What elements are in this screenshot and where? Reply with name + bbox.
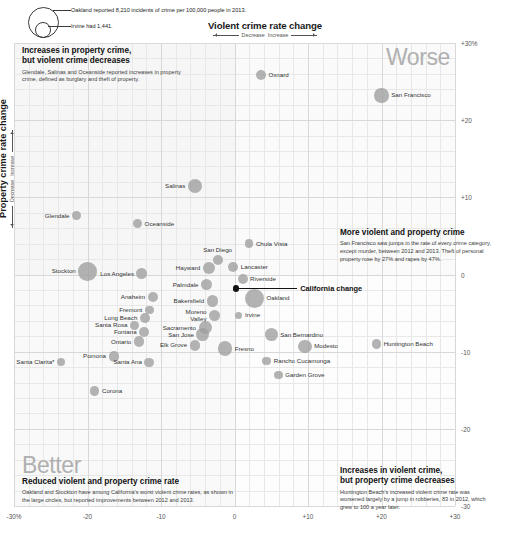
data-point-label: Rancho Cucamonga xyxy=(274,358,330,364)
annotation-bottom-left: Reduced violent and property crime rate … xyxy=(22,477,238,505)
annotation-top-right-body: San Francisco saw jumps in the rate of e… xyxy=(340,240,492,264)
arrow-right-icon xyxy=(291,35,317,36)
gridline-horizontal xyxy=(14,197,455,198)
gridline-vertical xyxy=(455,43,456,506)
y-tick-label: +10 xyxy=(461,194,472,201)
data-point-bubble[interactable] xyxy=(78,262,96,280)
x-tick-label: 0 xyxy=(233,513,237,520)
data-point-label: Garden Grove xyxy=(285,372,324,378)
data-point-bubble[interactable] xyxy=(213,255,223,265)
data-point-label: Bakersfield xyxy=(174,298,205,304)
x-tick-label: -10 xyxy=(156,513,165,520)
x-tick-label: +20 xyxy=(376,513,387,520)
data-point-label: Anaheim xyxy=(121,294,145,300)
data-point-bubble[interactable] xyxy=(274,371,282,379)
data-point-bubble[interactable] xyxy=(140,313,150,323)
legend-text-oakland: Oakland reported 8,210 incidents of crim… xyxy=(71,7,246,13)
data-point-label: Salinas xyxy=(165,183,185,189)
data-point-bubble[interactable] xyxy=(238,274,248,284)
data-point-label: San Diego xyxy=(203,247,232,253)
data-point-bubble[interactable] xyxy=(203,262,215,274)
data-point-label: Modesto xyxy=(314,343,338,349)
data-point-bubble[interactable] xyxy=(134,336,144,346)
gridline-horizontal xyxy=(14,429,455,430)
annotation-bottom-right-headline-2: but property crime decreases xyxy=(340,476,492,486)
x-dir-decrease-label: Decrease xyxy=(242,32,265,38)
data-point-label: Oakland xyxy=(266,295,289,301)
annotation-bottom-right: Increases in violent crime, but property… xyxy=(340,466,492,512)
worse-label: Worse xyxy=(386,44,450,71)
annotation-bottom-right-body: Huntington Beach's increased violent cri… xyxy=(340,489,492,513)
annotation-top-left-headline-1: Increases in property crime, xyxy=(22,46,182,56)
x-axis-title: Violent crime rate change xyxy=(190,20,340,31)
data-point-label: Elk Grove xyxy=(160,342,187,348)
data-point-bubble[interactable] xyxy=(139,327,149,337)
annotation-bottom-right-headline-1: Increases in violent crime, xyxy=(340,466,492,476)
data-point-bubble[interactable] xyxy=(298,340,311,353)
data-point-bubble[interactable] xyxy=(207,295,219,307)
data-point-label: Santa Clarita* xyxy=(16,359,54,365)
data-point-label: Irvine xyxy=(245,312,260,318)
gridline-horizontal xyxy=(14,120,455,121)
legend-circle-small xyxy=(35,22,51,38)
x-axis-title-block: Violent crime rate change Decrease Incre… xyxy=(190,20,340,38)
data-point-label: Ontario xyxy=(111,339,131,345)
data-point-label: San Jose xyxy=(168,332,194,338)
data-point-bubble[interactable] xyxy=(265,328,278,341)
data-point-label: Glendale xyxy=(45,213,70,219)
data-point-bubble[interactable] xyxy=(188,179,202,193)
legend-leader-line-oakland xyxy=(53,10,71,11)
data-point-label: Fresno xyxy=(235,345,254,351)
data-point-bubble[interactable] xyxy=(90,386,99,395)
arrow-up-icon xyxy=(12,130,13,152)
arrow-down-icon xyxy=(12,206,13,228)
data-point-bubble[interactable] xyxy=(148,292,158,302)
data-point-bubble[interactable] xyxy=(190,340,200,350)
data-point-label: Chula Vista xyxy=(256,241,288,247)
california-change-label: California change xyxy=(300,284,362,293)
arrow-left-icon xyxy=(213,35,239,36)
better-label: Better xyxy=(22,452,81,479)
x-axis-direction-row: Decrease Increase xyxy=(190,32,340,38)
annotation-bottom-left-body: Oakland and Stockton have among Californ… xyxy=(22,489,238,505)
x-dir-increase-label: Increase xyxy=(268,32,289,38)
annotation-top-right-headline-1: More violent and property crime xyxy=(340,228,492,238)
data-point-bubble[interactable] xyxy=(218,341,232,355)
data-point-label: Pomona xyxy=(83,353,106,359)
data-point-label: San Bernardino xyxy=(280,332,323,338)
data-point-bubble[interactable] xyxy=(228,262,238,272)
data-point-label: Oxnard xyxy=(268,72,288,78)
y-tick-label: 0 xyxy=(461,271,465,278)
annotation-top-left-headline-2: but violent crime decreases xyxy=(22,56,182,66)
data-point-label: Los Angeles xyxy=(100,271,134,277)
legend-leader-line-irvine xyxy=(48,26,71,27)
data-point-label: Santa Ana xyxy=(113,359,142,365)
x-tick-label: +30 xyxy=(450,513,461,520)
data-point-label: Palmdale xyxy=(173,281,199,287)
scatter-plot[interactable]: OxnardSan FranciscoSalinasGlendaleOceans… xyxy=(14,43,455,506)
data-point-label: San Francisco xyxy=(391,92,431,98)
annotation-top-left-body: Glendale, Salinas and Oceanside reported… xyxy=(22,69,182,85)
annotation-top-right: More violent and property crime San Fran… xyxy=(340,228,492,264)
california-change-leader-line xyxy=(239,288,297,289)
x-tick-label: -30% xyxy=(7,513,22,520)
data-point-bubble[interactable] xyxy=(374,88,388,102)
annotation-top-left: Increases in property crime, but violent… xyxy=(22,46,182,84)
data-point-label: Riverside xyxy=(250,276,276,282)
y-tick-label: +20 xyxy=(461,117,472,124)
x-tick-label: +10 xyxy=(303,513,314,520)
gridline-horizontal xyxy=(14,352,455,353)
data-point-label: Fontana xyxy=(114,328,137,334)
data-point-bubble[interactable] xyxy=(372,339,382,349)
legend-text-irvine: Irvine had 1,441. xyxy=(71,23,113,29)
data-point-bubble[interactable] xyxy=(245,289,264,308)
data-point-label: Oceanside xyxy=(145,220,175,226)
data-point-label: Huntington Beach xyxy=(384,341,433,347)
data-point-label: Long Beach xyxy=(104,315,137,321)
y-tick-label: -10 xyxy=(461,348,470,355)
annotation-bottom-left-headline-1: Reduced violent and property crime rate xyxy=(22,477,238,487)
y-tick-label: -20 xyxy=(461,425,470,432)
data-point-label: Fremont xyxy=(119,307,142,313)
data-point-label: Hayward xyxy=(176,264,200,270)
y-tick-label: +30% xyxy=(461,40,478,47)
